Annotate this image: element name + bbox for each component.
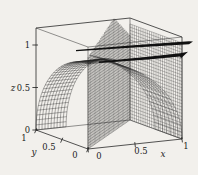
y-tick-label-0.5: 0.5 — [42, 142, 55, 152]
surface-diagonal-plane — [88, 18, 130, 149]
z-tick-label-0.5: 0.5 — [17, 83, 30, 93]
plot-canvas: 00.51x00.51y00.51z — [0, 0, 198, 175]
y-tick-label-0: 0 — [72, 150, 77, 160]
x-tick-label-0: 0 — [96, 151, 101, 161]
z-tick-label-1: 1 — [25, 40, 30, 50]
y-axis-label: y — [31, 147, 38, 157]
z-axis-label: z — [10, 83, 16, 93]
lower-intersection-ribbon — [99, 52, 188, 63]
x-tick-label-1: 1 — [183, 141, 188, 151]
x-axis-label: x — [161, 149, 166, 159]
surface-right-face-mesh — [130, 24, 182, 139]
z-tick-label-0: 0 — [25, 125, 30, 135]
figure-3d-surface-plot: 00.51x00.51y00.51z — [0, 0, 198, 175]
x-tick-label-0.5: 0.5 — [134, 146, 147, 156]
